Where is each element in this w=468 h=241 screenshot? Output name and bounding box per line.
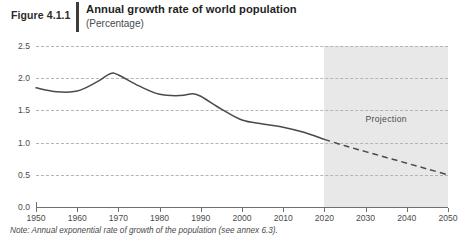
x-axis-tick-label: 1960 (57, 213, 97, 223)
plot-area: Projection (36, 46, 448, 207)
x-axis-tick-label: 2050 (428, 213, 468, 223)
estimates-line (36, 73, 324, 139)
figure-header: Figure 4.1.1 Annual growth rate of world… (0, 0, 468, 36)
x-axis-tick (77, 208, 78, 212)
x-axis-tick (201, 208, 202, 212)
x-axis-tick-label: 1950 (16, 213, 56, 223)
title-divider-rule (76, 2, 79, 32)
x-axis-tick-label: 1990 (181, 213, 221, 223)
x-axis-tick-label: 2020 (304, 213, 344, 223)
projection-line (324, 139, 448, 174)
y-axis-tick-label: 2.0 (8, 73, 30, 83)
x-axis-tick-label: 2000 (222, 213, 262, 223)
y-axis-tick-label: 2.5 (8, 41, 30, 51)
y-axis-tick-label: 1.5 (8, 105, 30, 115)
x-axis-tick (448, 208, 449, 212)
x-axis-tick (283, 208, 284, 212)
y-axis-tick-label: 0.5 (8, 170, 30, 180)
figure-note: Note: Annual exponential rate of growth … (10, 226, 278, 235)
y-axis-tick-label: 1.0 (8, 138, 30, 148)
x-axis-tick-label: 2040 (387, 213, 427, 223)
x-axis-tick-label: 1970 (98, 213, 138, 223)
x-axis-tick (366, 208, 367, 212)
chart-subtitle: (Percentage) (86, 18, 144, 29)
x-axis-tick (324, 208, 325, 212)
figure-number: Figure 4.1.1 (11, 9, 71, 21)
x-axis-tick (36, 208, 37, 212)
x-axis-tick-label: 2030 (346, 213, 386, 223)
x-axis-tick (407, 208, 408, 212)
y-axis-tick-label: 0.0 (8, 202, 30, 212)
growth-rate-curve (36, 46, 448, 207)
x-axis-tick (160, 208, 161, 212)
x-axis-tick (118, 208, 119, 212)
x-axis-tick (242, 208, 243, 212)
chart-title: Annual growth rate of world population (86, 3, 297, 15)
x-axis-tick-label: 2010 (263, 213, 303, 223)
x-axis-tick-label: 1980 (140, 213, 180, 223)
